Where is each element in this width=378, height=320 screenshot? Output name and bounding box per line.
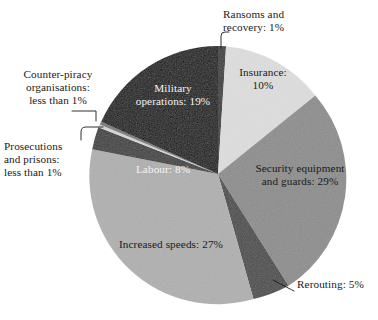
leader-line-counter-piracy (72, 111, 96, 121)
slice-label-ransoms-and-recovery: Ransoms and recovery: 1% (223, 8, 373, 34)
slice-label-labour: Labour: 8% (118, 163, 208, 176)
slice-label-insurance: Insurance: 10% (226, 66, 300, 92)
slice-label-counter-piracy-organisations: Counter-piracy organisations: less than … (2, 68, 114, 108)
slice-label-prosecutions-and-prisons: Prosecutions and prisons: less than 1% (4, 140, 98, 180)
slice-label-increased-speeds: Increased speeds: 27% (103, 238, 239, 251)
slice-label-rerouting: Rerouting: 5% (297, 278, 377, 291)
slice-label-security-equipment-and-guards: Security equipment and guards: 29% (233, 162, 367, 188)
pie-chart-figure: Ransoms and recovery: 1% Insurance: 10% … (0, 0, 378, 320)
slice-label-military-operations: Military operations: 19% (119, 82, 227, 108)
